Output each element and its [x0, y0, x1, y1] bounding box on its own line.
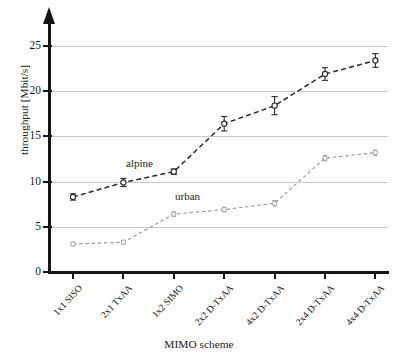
data-point-marker [70, 194, 75, 199]
data-point-marker [71, 242, 75, 246]
data-point-marker [373, 58, 378, 63]
series-alpine [70, 54, 379, 200]
data-point-marker [171, 169, 176, 174]
data-point-marker [322, 71, 327, 76]
data-point-marker [323, 156, 327, 160]
chart-figure: 0510152025 1x1 SISO2x1 TxAA1x2 SIMO2x2 D… [0, 0, 398, 360]
series-label-alpine: alpine [126, 157, 153, 169]
data-point-marker [172, 212, 176, 216]
data-point-marker [222, 121, 227, 126]
data-point-marker [272, 201, 276, 205]
data-series-layer [0, 0, 398, 360]
data-point-marker [121, 240, 125, 244]
series-label-urban: urban [175, 190, 200, 202]
data-point-marker [222, 207, 226, 211]
x-axis-title: MIMO scheme [0, 338, 398, 350]
data-point-marker [272, 103, 277, 108]
series-urban [71, 150, 378, 246]
data-point-marker [121, 180, 126, 185]
y-axis-title: throughput [Mbit/s] [18, 40, 30, 180]
series-line [73, 153, 375, 244]
data-point-marker [373, 150, 377, 154]
